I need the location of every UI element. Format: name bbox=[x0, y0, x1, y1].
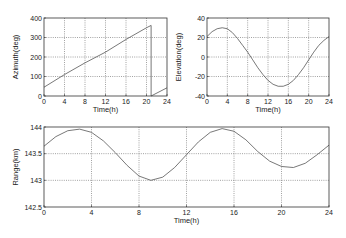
x-tick-label: 0 bbox=[42, 98, 46, 105]
elevation-chart: 04812162024-40-2002040Time(h)Elevation(d… bbox=[174, 15, 333, 115]
y-tick-label: 20 bbox=[197, 34, 205, 41]
x-tick-label: 12 bbox=[264, 98, 272, 105]
y-tick-label: 40 bbox=[197, 15, 205, 22]
x-tick-label: 0 bbox=[205, 98, 209, 105]
range-chart: 04812162024142.5143143.5144Time(h)Range(… bbox=[11, 124, 333, 226]
x-axis-label: Time(h) bbox=[174, 216, 200, 225]
y-axis-label: Elevation(deg) bbox=[174, 32, 183, 81]
x-tick-label: 24 bbox=[325, 98, 333, 105]
x-tick-label: 8 bbox=[137, 209, 141, 216]
y-tick-label: 400 bbox=[30, 15, 42, 22]
x-tick-label: 16 bbox=[284, 98, 292, 105]
x-tick-label: 24 bbox=[325, 209, 333, 216]
y-tick-label: -20 bbox=[195, 73, 205, 80]
x-tick-label: 24 bbox=[163, 98, 171, 105]
x-axis-label: Time(h) bbox=[255, 105, 281, 114]
y-tick-label: -40 bbox=[195, 93, 205, 100]
figure: 048121620240100200300400Time(h)Azimuth(d… bbox=[0, 0, 346, 238]
x-tick-label: 4 bbox=[63, 98, 67, 105]
y-tick-label: 142.5 bbox=[24, 204, 42, 211]
x-tick-label: 12 bbox=[102, 98, 110, 105]
y-tick-label: 200 bbox=[30, 54, 42, 61]
x-tick-label: 20 bbox=[278, 209, 286, 216]
x-tick-label: 16 bbox=[230, 209, 238, 216]
y-axis-label: Azimuth(deg) bbox=[11, 34, 20, 79]
x-tick-label: 20 bbox=[143, 98, 151, 105]
x-tick-label: 4 bbox=[90, 209, 94, 216]
x-tick-label: 20 bbox=[305, 98, 313, 105]
x-tick-label: 8 bbox=[246, 98, 250, 105]
y-tick-label: 300 bbox=[30, 34, 42, 41]
y-tick-label: 0 bbox=[38, 93, 42, 100]
x-axis-label: Time(h) bbox=[93, 105, 119, 114]
y-tick-label: 144 bbox=[30, 124, 42, 131]
azimuth-chart: 048121620240100200300400Time(h)Azimuth(d… bbox=[11, 15, 171, 115]
azimuth-curve bbox=[44, 25, 151, 87]
x-tick-label: 4 bbox=[225, 98, 229, 105]
x-tick-label: 0 bbox=[42, 209, 46, 216]
y-tick-label: 100 bbox=[30, 73, 42, 80]
y-tick-label: 143.5 bbox=[24, 150, 42, 157]
x-tick-label: 12 bbox=[183, 209, 191, 216]
y-tick-label: 0 bbox=[201, 54, 205, 61]
x-tick-label: 16 bbox=[122, 98, 130, 105]
x-tick-label: 8 bbox=[83, 98, 87, 105]
y-tick-label: 143 bbox=[30, 177, 42, 184]
azimuth-curve bbox=[151, 88, 167, 96]
y-axis-label: Range(km) bbox=[11, 148, 20, 186]
